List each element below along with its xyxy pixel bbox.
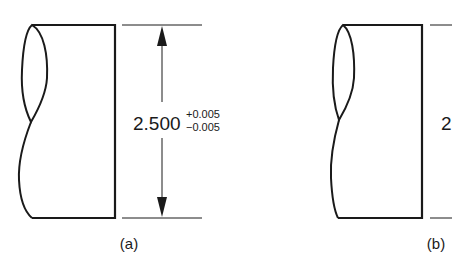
figure-b: 2 (b) xyxy=(331,25,452,252)
part-b-break-loop xyxy=(333,25,354,120)
arrowhead-up-icon xyxy=(157,26,167,46)
dimension-nominal-a: 2.500 xyxy=(133,113,181,134)
tolerance-plus-a: +0.005 xyxy=(186,108,220,120)
dimension-nominal-b: 2 xyxy=(441,113,452,134)
tolerance-minus-a: −0.005 xyxy=(186,121,220,133)
tolerance-diagram: 2.500 +0.005 −0.005 (a) 2 (b) xyxy=(0,0,452,261)
part-a-outline xyxy=(32,25,115,218)
figure-a: 2.500 +0.005 −0.005 (a) xyxy=(19,25,220,252)
figure-label-b: (b) xyxy=(427,235,445,252)
figure-label-a: (a) xyxy=(120,235,138,252)
part-a-break-lower xyxy=(19,122,32,218)
part-b-outline xyxy=(338,25,422,218)
part-a-break-loop xyxy=(22,25,47,122)
part-b-break-lower xyxy=(331,120,339,218)
arrowhead-down-icon xyxy=(157,197,167,217)
